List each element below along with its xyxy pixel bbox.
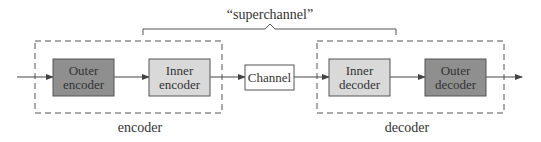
inner-decoder-line2: decoder	[339, 77, 381, 92]
outer-decoder-block: Outer decoder	[425, 59, 486, 96]
decoder-group-label: decoder	[385, 120, 430, 135]
inner-encoder-line2: encoder	[159, 77, 201, 92]
inner-encoder-line1: Inner	[166, 63, 194, 78]
encoder-group-label: encoder	[118, 120, 163, 135]
superchannel-label: “superchannel”	[227, 7, 313, 22]
superchannel-brace	[143, 24, 396, 35]
outer-encoder-line2: encoder	[63, 77, 105, 92]
channel-block: Channel	[245, 65, 294, 90]
outer-encoder-line1: Outer	[69, 63, 99, 78]
concatenated-coding-diagram: “superchannel” Outer encoder Inner encod…	[0, 0, 541, 142]
inner-encoder-block: Inner encoder	[149, 59, 210, 96]
outer-decoder-line2: decoder	[435, 77, 477, 92]
channel-label: Channel	[248, 70, 292, 85]
outer-encoder-block: Outer encoder	[53, 59, 114, 96]
outer-decoder-line1: Outer	[441, 63, 471, 78]
inner-decoder-block: Inner decoder	[329, 59, 390, 96]
inner-decoder-line1: Inner	[346, 63, 374, 78]
